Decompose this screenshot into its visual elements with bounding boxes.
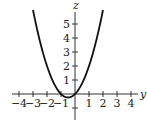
x-tick-label: 2	[100, 97, 107, 110]
vertical-axis-label: z	[72, 0, 79, 12]
z-tick-label: 2	[63, 60, 70, 73]
z-tick-label: 5	[63, 18, 70, 31]
x-tick-label: 4	[128, 97, 135, 110]
x-tick-label: 1	[86, 97, 93, 110]
parabola-chart: −4−3−2−1123412345 y z	[0, 0, 147, 126]
x-tick-label: −1	[53, 97, 69, 110]
z-tick-label: 3	[63, 46, 70, 59]
horizontal-axis-label: y	[139, 88, 147, 101]
z-tick-label: 4	[63, 32, 70, 45]
z-tick-label: 1	[63, 74, 70, 87]
x-tick-label: 3	[114, 97, 121, 110]
